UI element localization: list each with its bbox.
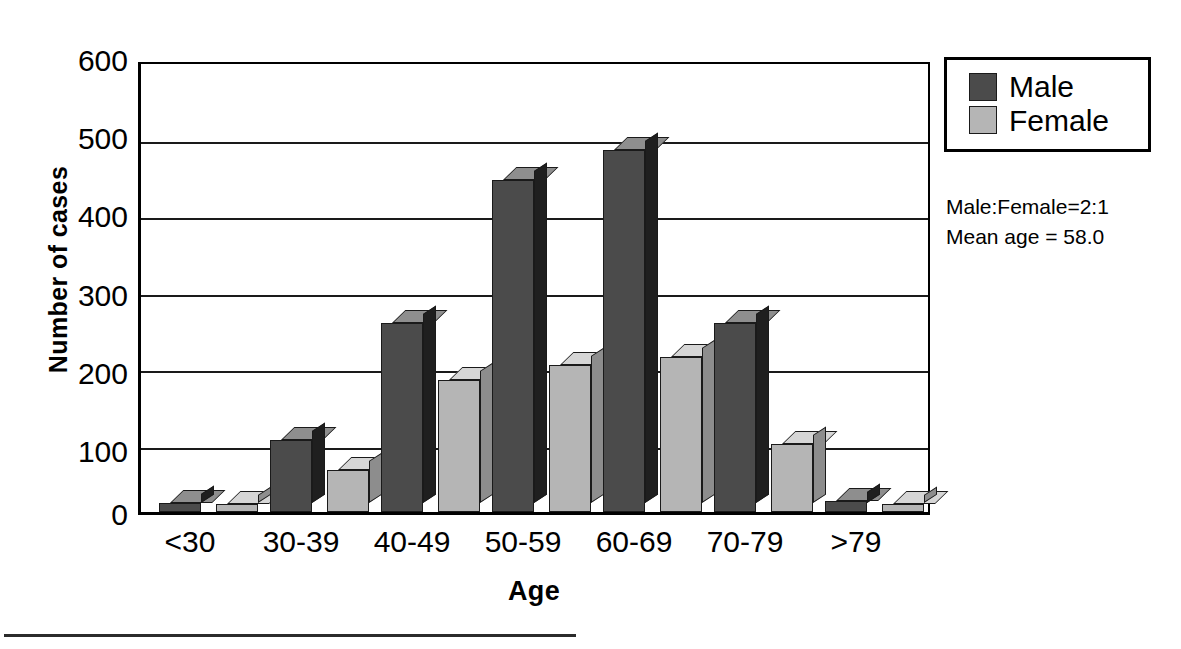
y-tick-label-600: 600 <box>32 46 128 76</box>
bar-group-30-39 <box>270 64 380 512</box>
bar-front-face <box>492 180 534 512</box>
bar-male-60-69[interactable] <box>603 150 645 512</box>
bar-side-face <box>423 306 436 503</box>
bar-female-30-39[interactable] <box>327 470 369 512</box>
bar-side-face <box>756 306 769 503</box>
bar-front-face <box>270 440 312 512</box>
bar-side-face <box>312 423 325 503</box>
legend-label-male: Male <box>1009 71 1074 103</box>
bar-side-face <box>645 133 658 503</box>
bar-female-70-79[interactable] <box>771 444 813 512</box>
y-tick-label-500: 500 <box>32 124 128 154</box>
x-axis-title: Age <box>138 576 930 607</box>
chart-legend: Male Female <box>944 57 1151 152</box>
chart-annotations: Male:Female=2:1 Mean age = 58.0 <box>946 192 1109 252</box>
bar-male-40-49[interactable] <box>381 323 423 512</box>
bar-group-40-49 <box>381 64 491 512</box>
bar-top-face <box>170 490 225 503</box>
bar-group-over79 <box>825 64 935 512</box>
bar-front-face <box>549 365 591 512</box>
bottom-divider <box>4 634 576 637</box>
bar-top-face <box>281 427 336 440</box>
y-tick-label-300: 300 <box>32 281 128 311</box>
bar-side-face <box>534 163 547 503</box>
bar-male-under30[interactable] <box>159 503 201 512</box>
bar-top-face <box>893 491 948 504</box>
bar-front-face <box>327 470 369 512</box>
y-tick-label-100: 100 <box>32 437 128 467</box>
bar-female-60-69[interactable] <box>660 357 702 512</box>
bar-male-50-59[interactable] <box>492 180 534 512</box>
legend-swatch-male-icon <box>969 73 997 101</box>
annotation-mean-age: Mean age = 58.0 <box>946 222 1109 252</box>
bar-front-face <box>771 444 813 512</box>
bar-front-face <box>660 357 702 512</box>
bar-front-face <box>438 380 480 512</box>
bar-female-over79[interactable] <box>882 504 924 512</box>
bar-male-30-39[interactable] <box>270 440 312 512</box>
legend-swatch-female-icon <box>969 106 997 134</box>
bar-group-50-59 <box>492 64 602 512</box>
bar-front-face <box>603 150 645 512</box>
x-tick-label-over79: >79 <box>786 527 926 557</box>
plot-area <box>138 62 930 515</box>
bar-front-face <box>159 503 201 512</box>
bar-top-face <box>836 488 891 501</box>
y-tick-label-200: 200 <box>32 359 128 389</box>
legend-item-female[interactable]: Female <box>947 104 1148 138</box>
bar-front-face <box>216 504 258 512</box>
bar-front-face <box>882 504 924 512</box>
bar-top-face <box>503 167 558 180</box>
legend-item-male[interactable]: Male <box>947 70 1148 104</box>
bar-top-face <box>725 310 780 323</box>
bar-male-70-79[interactable] <box>714 323 756 512</box>
bar-top-face <box>614 137 669 150</box>
bar-female-50-59[interactable] <box>549 365 591 512</box>
bar-female-40-49[interactable] <box>438 380 480 512</box>
bar-group-70-79 <box>714 64 824 512</box>
bar-group-60-69 <box>603 64 713 512</box>
chart-figure: Number of cases 600 500 400 300 200 100 … <box>0 0 1181 649</box>
bar-group-under30 <box>159 64 269 512</box>
bar-male-over79[interactable] <box>825 501 867 512</box>
bar-top-face <box>392 310 447 323</box>
annotation-sex-ratio: Male:Female=2:1 <box>946 192 1109 222</box>
bar-female-under30[interactable] <box>216 504 258 512</box>
bar-front-face <box>825 501 867 512</box>
y-tick-label-400: 400 <box>32 202 128 232</box>
legend-label-female: Female <box>1009 105 1109 137</box>
y-tick-label-0: 0 <box>32 500 128 530</box>
bar-front-face <box>714 323 756 512</box>
bar-front-face <box>381 323 423 512</box>
